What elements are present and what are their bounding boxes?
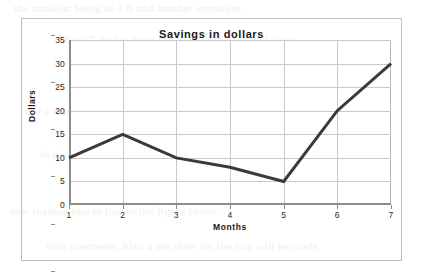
y-axis-tick-label: 20 bbox=[55, 106, 65, 116]
x-axis-tick-label: 6 bbox=[335, 210, 340, 220]
y-axis-tick-mark bbox=[51, 224, 55, 225]
x-axis-tick-label: 4 bbox=[228, 210, 233, 220]
y-axis-tick-label: 5 bbox=[60, 176, 65, 186]
y-axis-title: Dollars bbox=[27, 90, 37, 122]
chart-title: Savings in dollars bbox=[22, 28, 401, 40]
x-axis-tick-labels: 1234567 bbox=[69, 205, 391, 223]
y-axis-tick-label: 25 bbox=[55, 82, 65, 92]
chart-figure: Savings in dollars Dollars 0510152025303… bbox=[21, 18, 402, 261]
x-axis-tick-label: 7 bbox=[389, 210, 394, 220]
y-axis-tick-label: 30 bbox=[55, 59, 65, 69]
y-axis-tick-label: 35 bbox=[55, 35, 65, 45]
x-axis-tick-label: 3 bbox=[174, 210, 179, 220]
x-axis-tick-mark bbox=[230, 205, 231, 209]
x-axis-tick-mark bbox=[284, 205, 285, 209]
series-line-savings bbox=[69, 40, 391, 205]
x-axis-tick-mark bbox=[391, 205, 392, 209]
y-axis-tick-label: 10 bbox=[55, 153, 65, 163]
y-axis-tick-label: 0 bbox=[60, 200, 65, 210]
y-axis-tick-labels: 05101520253035 bbox=[46, 40, 65, 205]
y-axis-tick-mark bbox=[51, 176, 55, 177]
x-axis-tick-label: 1 bbox=[67, 210, 72, 220]
y-axis-tick-label: 15 bbox=[55, 129, 65, 139]
x-axis-tick-mark bbox=[69, 205, 70, 209]
plot-area bbox=[69, 40, 391, 205]
x-axis-tick-label: 5 bbox=[281, 210, 286, 220]
bleed-text-line: the smallest being of 4 ft and another e… bbox=[14, 2, 242, 14]
y-axis-tick-mark bbox=[51, 129, 55, 130]
x-axis-tick-label: 2 bbox=[120, 210, 125, 220]
x-axis-tick-mark bbox=[337, 205, 338, 209]
y-axis-tick-mark bbox=[51, 35, 55, 36]
y-axis-tick-mark bbox=[51, 82, 55, 83]
y-axis-tick-mark bbox=[51, 271, 55, 272]
x-axis-tick-mark bbox=[176, 205, 177, 209]
x-axis-tick-mark bbox=[123, 205, 124, 209]
x-axis-title: Months bbox=[69, 222, 391, 232]
